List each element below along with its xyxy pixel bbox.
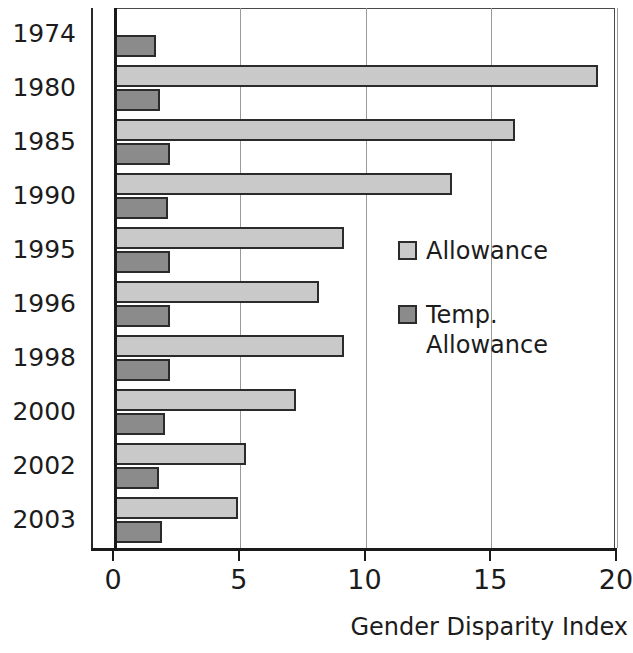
bar-chart: 1974198019851990199519961998200020022003… — [0, 0, 633, 653]
bar-1974-temp-allowance — [115, 35, 156, 57]
bar-2003-temp-allowance — [115, 521, 162, 543]
y-axis-label-2002: 2002 — [12, 453, 76, 478]
y-axis-label-1995: 1995 — [12, 237, 76, 262]
y-axis-label-1998: 1998 — [12, 345, 76, 370]
y-axis-label-1985: 1985 — [12, 129, 76, 154]
gridline-20 — [617, 8, 618, 548]
y-axis-category-labels: 1974198019851990199519961998200020022003 — [0, 8, 86, 548]
x-tick-10 — [364, 548, 366, 561]
x-tick-5 — [238, 548, 240, 561]
bar-1998-temp-allowance — [115, 359, 170, 381]
x-tick-15 — [489, 548, 491, 561]
bar-1990-temp-allowance — [115, 197, 168, 219]
gridline-5 — [240, 8, 241, 548]
bar-1996-allowance — [115, 281, 319, 303]
x-tick-label-10: 10 — [347, 566, 381, 593]
chart-legend: AllowanceTemp. Allowance — [398, 236, 613, 394]
x-tick-label-15: 15 — [473, 566, 507, 593]
y-axis-label-1974: 1974 — [12, 21, 76, 46]
bar-2003-allowance — [115, 497, 238, 519]
x-tick-20 — [615, 548, 617, 561]
bar-1990-allowance — [115, 173, 452, 195]
legend-label: Temp. Allowance — [426, 300, 548, 360]
zero-axis-line — [114, 8, 117, 548]
bar-1985-temp-allowance — [115, 143, 170, 165]
y-axis-label-2003: 2003 — [12, 507, 76, 532]
legend-label: Allowance — [426, 236, 548, 266]
bar-1998-allowance — [115, 335, 344, 357]
bar-1995-allowance — [115, 227, 344, 249]
y-axis-label-1996: 1996 — [12, 291, 76, 316]
bar-2000-temp-allowance — [115, 413, 165, 435]
bar-1995-temp-allowance — [115, 251, 170, 273]
x-axis: 05101520 — [91, 548, 615, 549]
bar-1985-allowance — [115, 119, 515, 141]
y-axis-label-2000: 2000 — [12, 399, 76, 424]
bar-2000-allowance — [115, 389, 296, 411]
gridline-10 — [366, 8, 367, 548]
bar-1980-allowance — [115, 65, 598, 87]
bar-1980-temp-allowance — [115, 89, 160, 111]
y-axis-label-1980: 1980 — [12, 75, 76, 100]
bar-1996-temp-allowance — [115, 305, 170, 327]
x-tick-label-5: 5 — [230, 566, 247, 593]
legend-item-2: Temp. Allowance — [398, 300, 613, 360]
legend-swatch-icon-temp — [398, 305, 417, 324]
bar-2002-temp-allowance — [115, 467, 159, 489]
bar-2002-allowance — [115, 443, 246, 465]
x-tick-label-20: 20 — [599, 566, 633, 593]
x-axis-line — [91, 548, 615, 551]
legend-swatch-icon-allow — [398, 241, 417, 260]
legend-item-1: Allowance — [398, 236, 613, 266]
y-axis-label-1990: 1990 — [12, 183, 76, 208]
plot-right-border — [614, 8, 615, 548]
plot-top-border — [114, 8, 615, 9]
x-axis-title: Gender Disparity Index — [0, 613, 628, 641]
x-tick-0 — [112, 548, 114, 561]
x-tick-label-0: 0 — [104, 566, 121, 593]
